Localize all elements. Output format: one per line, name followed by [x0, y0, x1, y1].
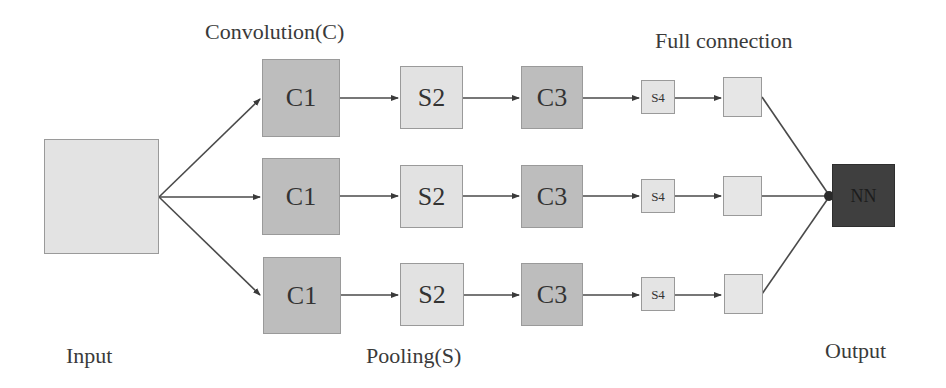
fc-box-row1 — [723, 77, 762, 117]
input-label: Input — [66, 345, 112, 367]
input-box — [44, 139, 159, 254]
c1-box-row3: C1 — [263, 257, 341, 334]
pooling-label: Pooling(S) — [366, 345, 461, 367]
s2-box-row3: S2 — [400, 263, 464, 326]
c3-box-row3: C3 — [521, 263, 583, 326]
c1-box-row2: C1 — [262, 158, 340, 235]
c3-box-row2: C3 — [521, 165, 583, 228]
full-connection-label: Full connection — [655, 30, 792, 52]
s2-box-row2: S2 — [400, 165, 463, 228]
output-label: Output — [825, 340, 886, 362]
s4-box-row1: S4 — [641, 80, 675, 114]
c3-box-row1: C3 — [521, 66, 583, 129]
nn-output-box: NN — [832, 164, 895, 227]
s4-box-row2: S4 — [641, 179, 675, 213]
fc-box-row3 — [724, 274, 763, 314]
fc-box-row2 — [723, 176, 762, 216]
s2-box-row1: S2 — [400, 66, 463, 129]
c1-box-row1: C1 — [262, 59, 340, 137]
convolution-label: Convolution(C) — [205, 21, 344, 43]
s4-box-row3: S4 — [641, 277, 675, 311]
